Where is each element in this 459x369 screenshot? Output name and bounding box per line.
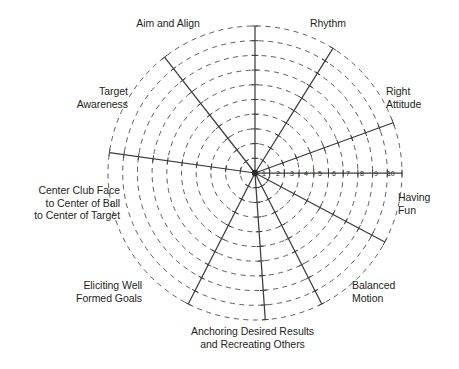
tick-rhythm-9 — [322, 59, 328, 63]
tick-center-club-face-10 — [109, 149, 110, 156]
axis-label-anchoring-desired-results: Anchoring Desired Results and Recreating… — [160, 325, 345, 350]
tick-center-club-face-9 — [124, 151, 125, 158]
scale-tick-8: 8 — [360, 168, 364, 181]
scale-tick-6: 6 — [332, 168, 336, 181]
tick-rhythm-6 — [299, 96, 305, 100]
tick-rhythm-3 — [275, 134, 281, 138]
scale-tick-4: 4 — [304, 168, 308, 181]
tick-center-club-face-7 — [153, 155, 154, 162]
tick-rhythm-4 — [283, 121, 289, 125]
scale-tick-2: 2 — [276, 168, 280, 181]
tick-rhythm-2 — [268, 146, 274, 150]
axis-label-rhythm: Rhythm — [290, 17, 366, 30]
tick-center-club-face-4 — [196, 161, 197, 168]
radar-chart: 1 2 3 4 5 6 7 8 9 10 Aim and Align Rhyth… — [0, 0, 459, 369]
scale-tick-7: 7 — [346, 168, 350, 181]
axis-label-right-attitude: Right Attitude — [386, 85, 456, 110]
tick-center-club-face-6 — [167, 157, 168, 164]
tick-rhythm-8 — [314, 71, 320, 75]
scale-tick-9: 9 — [374, 168, 378, 181]
scale-tick-5: 5 — [318, 168, 322, 181]
tick-center-club-face-1 — [240, 168, 241, 175]
tick-center-club-face-8 — [138, 153, 139, 160]
axis-label-center-club-face: Center Club Face to Center of Ball to Ce… — [10, 184, 120, 222]
scale-tick-3: 3 — [290, 168, 294, 181]
axis-label-aim-and-align: Aim and Align — [113, 17, 223, 30]
axis-label-balanced-motion: Balanced Motion — [352, 279, 432, 304]
tick-center-club-face-2 — [225, 166, 226, 173]
tick-center-club-face-5 — [182, 159, 183, 166]
tick-center-club-face-3 — [211, 164, 212, 171]
axis-label-eliciting-well-formed-goals: Eliciting Well Formed Goals — [52, 279, 142, 304]
tick-rhythm-7 — [307, 84, 313, 88]
scale-tick-1: 1 — [262, 168, 266, 181]
tick-rhythm-1 — [260, 159, 266, 163]
chart-center-hub — [252, 170, 258, 176]
tick-rhythm-5 — [291, 109, 297, 113]
tick-rhythm-10 — [330, 47, 336, 51]
axis-label-having-fun: Having Fun — [398, 191, 458, 216]
scale-tick-10: 10 — [387, 168, 395, 181]
axis-label-target-awareness: Target Awareness — [48, 85, 128, 110]
